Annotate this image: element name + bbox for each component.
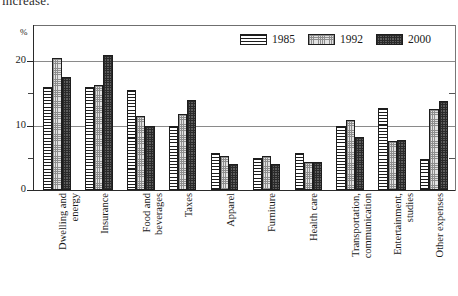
bar-1992 — [262, 156, 271, 190]
legend-item-1985: 1985 — [240, 33, 295, 45]
bar-group — [246, 25, 288, 190]
y-tick-label: 10 — [2, 119, 26, 130]
bar-group — [287, 25, 329, 190]
bar-group — [78, 25, 120, 190]
bar-2000 — [145, 126, 154, 190]
bar-1992 — [429, 109, 438, 190]
x-category-label: Insurance — [78, 193, 120, 293]
bar-1985 — [336, 126, 345, 190]
bar-1992 — [304, 162, 313, 190]
y-tick-major — [27, 61, 33, 62]
x-category-label: Other expenses — [413, 193, 455, 293]
bar-1992 — [388, 141, 397, 190]
x-category-line: Dwelling and — [57, 193, 69, 250]
bar-group — [36, 25, 78, 190]
bar-2000 — [229, 164, 238, 190]
bar-1985 — [169, 126, 178, 190]
legend-label: 2000 — [408, 33, 431, 45]
bar-2000 — [103, 55, 112, 190]
x-category-label: Health care — [287, 193, 329, 293]
bar-group — [120, 25, 162, 190]
legend-swatch-1992 — [308, 34, 335, 45]
bar-group — [162, 25, 204, 190]
legend-label: 1992 — [340, 33, 363, 45]
legend-swatch-1985 — [240, 34, 267, 45]
x-category-label: Transportation,communication — [329, 193, 371, 293]
bar-2000 — [439, 101, 448, 190]
caption-fragment: increase. — [2, 0, 50, 6]
bars-area — [36, 25, 455, 190]
bar-2000 — [397, 140, 406, 190]
x-category-line: Health care — [308, 193, 320, 241]
bar-1985 — [85, 87, 94, 190]
legend-swatch-2000 — [376, 34, 403, 45]
bar-1992 — [346, 120, 355, 190]
x-category-line: Transportation, — [350, 193, 362, 258]
bar-group — [371, 25, 413, 190]
bar-2000 — [187, 100, 196, 190]
bar-group — [329, 25, 371, 190]
x-category-label: Dwelling andenergy — [36, 193, 78, 293]
legend-item-1992: 1992 — [308, 33, 363, 45]
x-category-line: Food and — [141, 193, 153, 235]
bar-group — [204, 25, 246, 190]
bar-1985 — [211, 153, 220, 190]
bar-1985 — [420, 159, 429, 190]
bar-1985 — [295, 153, 304, 190]
x-category-line: Apparel — [225, 193, 237, 227]
x-category-line: Other expenses — [434, 193, 446, 257]
y-axis-line — [33, 25, 34, 191]
bar-1985 — [43, 87, 52, 190]
y-tick-label: 0 — [2, 183, 26, 194]
x-category-label: Apparel — [204, 193, 246, 293]
legend-label: 1985 — [272, 33, 295, 45]
bar-1992 — [178, 114, 187, 190]
plot-frame-right — [455, 25, 456, 191]
bar-2000 — [313, 162, 322, 190]
y-tick-minor — [28, 93, 33, 94]
x-category-line: Taxes — [183, 193, 195, 217]
bar-1992 — [220, 156, 229, 190]
x-category-label: Food andbeverages — [120, 193, 162, 293]
x-category-line: Entertainment, — [392, 193, 404, 255]
x-category-line: Insurance — [99, 193, 111, 234]
bar-group — [413, 25, 455, 190]
bar-1992 — [52, 58, 61, 190]
y-tick-label: 20 — [2, 54, 26, 65]
x-category-line: Furniture — [266, 193, 278, 232]
bar-1985 — [253, 158, 262, 190]
y-tick-major — [27, 190, 33, 191]
y-tick-minor — [28, 158, 33, 159]
x-axis-line — [33, 190, 455, 191]
bar-1992 — [136, 116, 145, 190]
x-axis-category-labels: Dwelling andenergyInsuranceFood andbever… — [36, 193, 455, 293]
y-tick-major — [27, 126, 33, 127]
legend-item-2000: 2000 — [376, 33, 431, 45]
chart-figure: increase. % 01020 198519922000 Dwelling … — [0, 0, 458, 296]
bar-2000 — [62, 77, 71, 190]
bar-2000 — [355, 137, 364, 190]
x-category-label: Furniture — [246, 193, 288, 293]
bar-1985 — [127, 90, 136, 190]
bar-2000 — [271, 164, 280, 190]
bar-1985 — [378, 108, 387, 190]
bar-1992 — [94, 85, 103, 190]
x-category-label: Taxes — [162, 193, 204, 293]
chart-legend: 198519922000 — [240, 33, 431, 45]
y-axis-unit-label: % — [20, 27, 28, 37]
x-category-label: Entertainment,studies — [371, 193, 413, 293]
